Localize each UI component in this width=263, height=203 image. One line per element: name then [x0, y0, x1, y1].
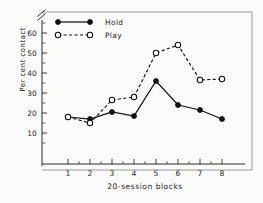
y-tick-label-30: 30	[27, 89, 37, 98]
x-tick-label-7: 7	[197, 169, 202, 178]
legend-label-hold[interactable]: Hold	[105, 18, 123, 27]
y-tick-label-50: 50	[27, 49, 37, 58]
x-tick-label-2: 2	[87, 169, 92, 178]
legend-marker-play	[55, 32, 60, 37]
y-tick-label-60: 60	[27, 29, 37, 38]
x-tick-label-5: 5	[153, 169, 158, 178]
x-tick-label-4: 4	[131, 169, 136, 178]
data-point-play-4[interactable]	[131, 94, 136, 99]
chart-legend: HoldPlay	[55, 18, 123, 40]
figure-container: Per cent contact 20-session blocks 10203…	[0, 0, 263, 203]
data-series-layer	[65, 42, 224, 125]
data-point-hold-7[interactable]	[198, 108, 203, 113]
legend-marker-hold	[56, 20, 61, 25]
series-line-hold	[68, 81, 222, 119]
y-tick-group: 102030405060	[27, 23, 47, 143]
y-axis-break-icon	[38, 10, 46, 21]
data-point-play-3[interactable]	[109, 97, 114, 102]
plot-frame	[42, 12, 252, 170]
x-tick-label-1: 1	[65, 169, 70, 178]
x-tick-label-8: 8	[219, 169, 224, 178]
x-tick-label-3: 3	[109, 169, 114, 178]
data-point-hold-8[interactable]	[220, 117, 225, 122]
data-point-hold-6[interactable]	[176, 103, 181, 108]
data-point-play-2[interactable]	[87, 120, 92, 125]
x-tick-label-6: 6	[175, 169, 180, 178]
x-tick-group: 12345678	[65, 159, 224, 178]
data-point-play-5[interactable]	[153, 50, 158, 55]
legend-label-play[interactable]: Play	[105, 31, 122, 40]
data-point-play-7[interactable]	[197, 77, 202, 82]
data-point-hold-3[interactable]	[110, 110, 115, 115]
y-tick-label-20: 20	[27, 109, 37, 118]
data-point-play-1[interactable]	[65, 114, 70, 119]
legend-marker-hold	[88, 20, 93, 25]
y-tick-label-40: 40	[27, 69, 37, 78]
chart-plot-area: 102030405060 12345678 HoldPlay	[0, 0, 263, 203]
legend-marker-play	[87, 32, 92, 37]
data-point-play-8[interactable]	[219, 76, 224, 81]
data-point-hold-5[interactable]	[154, 79, 159, 84]
data-point-play-6[interactable]	[175, 42, 180, 47]
y-tick-label-10: 10	[27, 129, 37, 138]
data-point-hold-4[interactable]	[132, 114, 137, 119]
